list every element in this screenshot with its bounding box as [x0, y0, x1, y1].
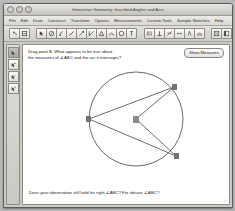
toolbar-group-draw — [36, 28, 137, 39]
toolbar-group-measure — [144, 28, 205, 39]
tool-palette — [6, 44, 20, 205]
palette-tool-point[interactable] — [8, 59, 19, 70]
prompt-text: Drag point B. What appears to be true ab… — [28, 49, 146, 62]
point-B[interactable] — [86, 116, 91, 122]
bottom-question: Does your observation still hold for rig… — [29, 190, 225, 196]
prompt-line-1: Drag point B. What appears to be true ab… — [28, 49, 112, 54]
palette-tool-line[interactable] — [8, 71, 19, 82]
window-title: Interactive Geometry: Inscribed Angles a… — [4, 4, 232, 15]
menu-item-draw[interactable]: Draw — [33, 16, 43, 25]
window-body: Drag point B. What appears to be true ab… — [4, 42, 232, 207]
palette-tool-label[interactable] — [8, 83, 19, 94]
menu-item-file[interactable]: File — [9, 16, 16, 25]
point-A[interactable] — [172, 84, 177, 90]
menu-item-options[interactable]: Options — [95, 16, 109, 25]
window-title-bar[interactable]: Interactive Geometry: Inscribed Angles a… — [4, 4, 232, 16]
menu-item-measurements[interactable]: Measurements — [114, 16, 142, 25]
redo-icon[interactable] — [19, 28, 30, 39]
text-tool-icon[interactable] — [126, 28, 137, 39]
menu-item-sample-sketches[interactable]: Sample Sketches — [177, 16, 210, 25]
menu-item-custom-tools[interactable]: Custom Tools — [147, 16, 172, 25]
application-window: Interactive Geometry: Inscribed Angles a… — [3, 3, 233, 208]
segment-BA[interactable] — [89, 87, 174, 119]
sketch-canvas[interactable]: Drag point B. What appears to be true ab… — [22, 44, 230, 205]
menu-bar: File Edit Draw Construct Transform Optio… — [4, 16, 232, 26]
palette-tool-select[interactable] — [8, 47, 19, 58]
toolbar-group-view — [211, 28, 232, 39]
segment-BC[interactable] — [89, 119, 176, 156]
menu-item-help[interactable]: Help — [215, 16, 224, 25]
toolbar-group-history — [9, 28, 30, 39]
panel-icon[interactable] — [221, 28, 232, 39]
menu-item-edit[interactable]: Edit — [21, 16, 28, 25]
resize-handle-icon[interactable] — [222, 197, 228, 203]
main-toolbar — [4, 26, 232, 42]
protractor-icon[interactable] — [194, 28, 205, 39]
point-center[interactable] — [133, 116, 139, 123]
show-measures-button[interactable]: Show Measures — [184, 48, 224, 58]
menu-item-transform[interactable]: Transform — [71, 16, 90, 25]
segment-center-A[interactable] — [136, 87, 174, 119]
segment-center-C[interactable] — [136, 119, 176, 156]
inscribed-angle-circle[interactable] — [23, 61, 229, 181]
point-C[interactable] — [174, 153, 179, 159]
menu-item-construct[interactable]: Construct — [48, 16, 66, 25]
